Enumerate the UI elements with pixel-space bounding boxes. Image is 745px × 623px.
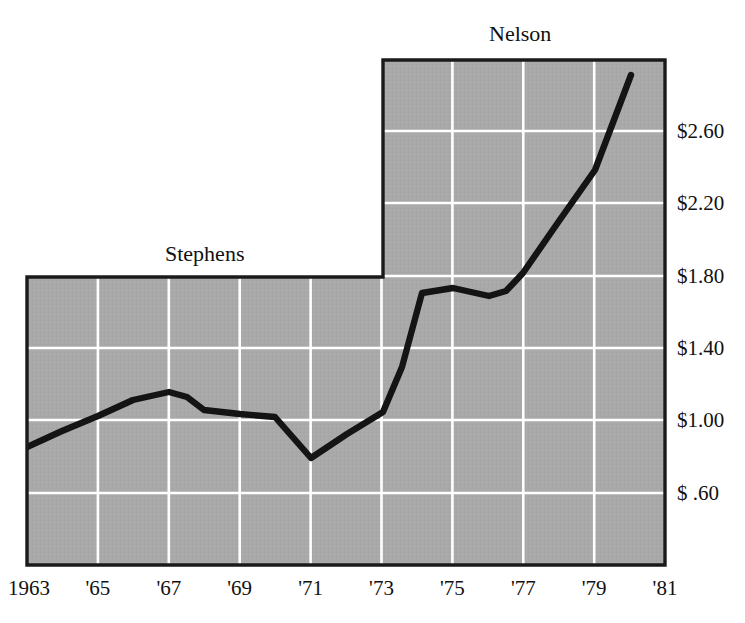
x-tick-label: '79 — [582, 576, 607, 600]
x-tick-label: '77 — [511, 576, 536, 600]
x-tick-label: '73 — [369, 576, 394, 600]
stock-price-line-chart: Stephens Nelson $2.60 $2.20 $1.80 $1.40 … — [0, 0, 745, 623]
y-tick-label: $2.20 — [677, 191, 724, 215]
chart-page: Stephens Nelson $2.60 $2.20 $1.80 $1.40 … — [0, 0, 745, 623]
series-label-stephens: Stephens — [165, 241, 244, 266]
y-tick-label: $1.80 — [677, 264, 724, 288]
y-tick-label: $ .60 — [677, 481, 719, 505]
x-tick-label: 1963 — [8, 576, 50, 600]
x-tick-label: '65 — [86, 576, 111, 600]
x-axis-tick-labels: 1963 '65 '67 '69 '71 '73 '75 '77 '79 '81 — [8, 576, 677, 600]
x-tick-label: '81 — [653, 576, 678, 600]
y-tick-label: $1.00 — [677, 408, 724, 432]
x-tick-label: '67 — [156, 576, 181, 600]
x-tick-label: '71 — [298, 576, 323, 600]
plot-area-background — [27, 60, 665, 565]
y-axis-tick-labels: $2.60 $2.20 $1.80 $1.40 $1.00 $ .60 — [677, 119, 724, 505]
y-tick-label: $2.60 — [677, 119, 724, 143]
x-tick-label: '75 — [440, 576, 465, 600]
series-label-nelson: Nelson — [489, 21, 551, 46]
x-tick-label: '69 — [227, 576, 252, 600]
y-tick-label: $1.40 — [677, 336, 724, 360]
